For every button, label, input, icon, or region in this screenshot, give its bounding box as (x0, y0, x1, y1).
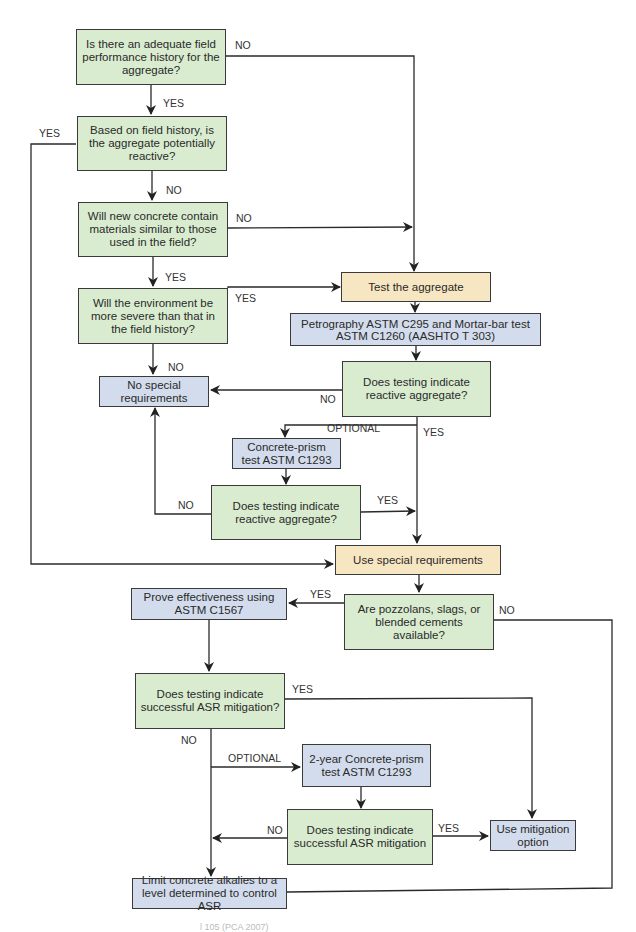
use-special-requirements-box: Use special requirements (335, 545, 501, 575)
edge-label-no: NO (267, 824, 283, 836)
edge-label-yes: YES (39, 127, 60, 139)
edge-label-yes: YES (423, 426, 444, 438)
edge-label-no: NO (178, 499, 194, 511)
asr-mitigation-decision-2: Does testing indicate successful ASR mit… (287, 809, 433, 865)
edge-label-yes: YES (377, 494, 398, 506)
prove-effectiveness-box: Prove effectiveness using ASTM C1567 (131, 588, 287, 620)
edge-label-no: NO (168, 361, 184, 373)
edge-label-no: NO (236, 212, 252, 224)
edge-label-no: NO (235, 39, 251, 51)
pozzolans-decision: Are pozzolans, slags, or blended cements… (344, 594, 494, 650)
petrography-test-box: Petrography ASTM C295 and Mortar-bar tes… (290, 313, 541, 346)
edge-label-no: NO (166, 184, 182, 196)
edge-label-yes: YES (310, 588, 331, 600)
asr-mitigation-decision-1: Does testing indicate successful ASR mit… (135, 673, 285, 729)
edge-label-yes: YES (163, 97, 184, 109)
two-year-prism-test-box: 2-year Concrete-prism test ASTM C1293 (302, 744, 431, 787)
edge-label-optional: OPTIONAL (228, 752, 281, 764)
use-mitigation-option-box: Use mitigation option (490, 820, 576, 851)
edge-label-yes: YES (165, 271, 186, 283)
edge-label-yes: YES (292, 683, 313, 695)
edge-label-no: NO (499, 604, 515, 616)
edge-label-no: NO (320, 393, 336, 405)
edge-label-no: NO (181, 734, 197, 746)
field-history-decision: Is there an adequate field performance h… (76, 29, 226, 85)
edge-label-yes: YES (235, 292, 256, 304)
test-aggregate-box: Test the aggregate (341, 272, 491, 302)
no-special-requirements-box: No special requirements (99, 376, 209, 407)
edge-label-optional: OPTIONAL (327, 422, 380, 434)
limit-alkalies-box: Limit concrete alkalies to a level deter… (132, 878, 287, 909)
figure-caption: l 105 (PCA 2007) (200, 922, 269, 932)
reactive-aggregate-decision-2: Does testing indicate reactive aggregate… (211, 485, 361, 540)
reactive-aggregate-decision-1: Does testing indicate reactive aggregate… (342, 361, 491, 417)
potentially-reactive-decision: Based on field history, is the aggregate… (77, 116, 227, 171)
edge-label-yes: YES (438, 822, 459, 834)
similar-materials-decision: Will new concrete contain materials simi… (78, 202, 228, 257)
environment-decision: Will the environment be more severe than… (78, 288, 228, 344)
concrete-prism-test-box: Concrete-prism test ASTM C1293 (232, 438, 341, 469)
